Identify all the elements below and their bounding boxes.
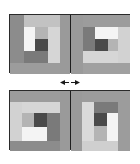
block-divider [70, 91, 71, 149]
patch-inner-white [24, 27, 35, 51]
patch-outer-left-strip [10, 15, 24, 63]
patch-outer-left-strip [71, 91, 82, 151]
patch-outer-right-strip [118, 27, 130, 63]
patch-outer-left-strip [71, 15, 83, 74]
patch-center-dark-square [95, 39, 108, 51]
patch-outer-bottom-strip [83, 63, 130, 74]
patch-outer-left-strip [10, 102, 22, 141]
patch-inner-right-medium [47, 113, 60, 141]
patch-inner-light-square [94, 126, 107, 141]
quilt-block-top-right [71, 15, 130, 72]
patch-inner-light-square [22, 113, 34, 127]
patch-inner-white [107, 113, 118, 141]
quilt-block-bottom-right [71, 91, 130, 149]
patch-inner-light-square [35, 27, 48, 39]
patch-inner-right-light [48, 27, 60, 63]
patch-outer-top-strip [82, 91, 130, 102]
patch-inner-bottom-medium [24, 51, 48, 63]
patch-outer-right-strip [60, 91, 70, 151]
block-divider [70, 15, 71, 72]
patch-center-dark-square [35, 39, 48, 51]
patch-outer-top-strip [24, 15, 60, 27]
patch-center-dark-square [94, 113, 107, 126]
patch-inner-top-medium [94, 102, 118, 113]
patch-inner-left-light [82, 102, 94, 141]
patch-outer-top-strip [10, 91, 60, 102]
patch-inner-top-light [22, 102, 60, 113]
bottom-block-pair [9, 90, 130, 150]
patch-outer-right-strip [118, 102, 130, 151]
top-block-pair [9, 14, 130, 73]
quilt-block-top-left [10, 15, 70, 72]
patch-outer-top-strip [83, 15, 130, 27]
patch-inner-white [95, 27, 118, 39]
patch-outer-right-strip [60, 15, 70, 74]
double-arrow-left-right-icon [60, 79, 80, 86]
patch-inner-white [22, 127, 47, 141]
patch-outer-bottom-strip [10, 141, 60, 151]
patch-center-dark-square [34, 113, 47, 127]
patch-outer-bottom-strip [10, 63, 60, 74]
patch-outer-bottom-strip [82, 141, 118, 151]
quilt-block-bottom-left [10, 91, 70, 149]
patch-inner-bottom-light [83, 51, 118, 63]
patch-inner-left-medium [83, 27, 95, 51]
patch-inner-light-square [108, 39, 118, 51]
